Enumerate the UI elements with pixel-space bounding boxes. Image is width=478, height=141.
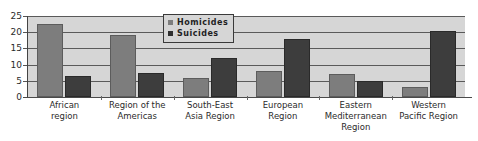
y-axis: 2520151050 — [0, 11, 22, 98]
x-axis-label-3: EuropeanRegion — [247, 100, 320, 122]
bar-homicides-1 — [110, 35, 136, 97]
y-tick-label-0: 0 — [0, 93, 22, 102]
bar-homicides-0 — [37, 24, 63, 97]
bar-homicides-5 — [402, 87, 428, 97]
x-axis-separator-1 — [101, 96, 102, 100]
y-tick-label-25: 25 — [0, 12, 22, 21]
bar-homicides-2 — [183, 78, 209, 97]
x-axis-label-1: Region of theAmericas — [101, 100, 174, 122]
bar-group — [247, 16, 320, 97]
legend-swatch-suicides — [168, 31, 173, 36]
bar-group — [319, 16, 392, 97]
bar-homicides-3 — [256, 71, 282, 97]
legend-label-suicides: Suicides — [177, 29, 219, 38]
x-axis-label-5: WesternPacific Region — [392, 100, 465, 122]
y-tick-label-10: 10 — [0, 60, 22, 69]
legend-item-suicides: Suicides — [168, 28, 228, 39]
bar-group — [392, 16, 465, 97]
y-tick-label-15: 15 — [0, 44, 22, 53]
bar-suicides-2 — [211, 58, 237, 97]
legend-swatch-homicides — [168, 20, 173, 25]
y-tick-label-20: 20 — [0, 28, 22, 37]
legend-item-homicides: Homicides — [168, 17, 228, 28]
x-axis-label-2: South-EastAsia Region — [174, 100, 247, 122]
x-axis-label-4: EasternMediterraneanRegion — [319, 100, 392, 133]
bar-suicides-4 — [357, 81, 383, 97]
x-axis-line — [23, 97, 472, 98]
bar-suicides-3 — [284, 39, 310, 97]
x-axis-separator-2 — [174, 96, 175, 100]
x-axis-separator-3 — [247, 96, 248, 100]
chart-title — [0, 0, 478, 5]
x-axis-label-0: Africanregion — [28, 100, 101, 122]
plot-area — [28, 16, 465, 97]
chart-legend: Homicides Suicides — [163, 14, 234, 43]
x-axis-separator-5 — [392, 96, 393, 100]
bar-suicides-1 — [138, 73, 164, 97]
bar-homicides-4 — [329, 74, 355, 97]
x-axis-labels: AfricanregionRegion of theAmericasSouth-… — [28, 100, 465, 141]
bar-chart: 2520151050 Homicides Suicides Africanreg… — [0, 0, 478, 141]
bar-suicides-0 — [65, 76, 91, 97]
x-axis-separator-4 — [319, 96, 320, 100]
legend-label-homicides: Homicides — [177, 18, 228, 27]
bar-group — [28, 16, 101, 97]
y-tick-label-5: 5 — [0, 76, 22, 85]
bar-suicides-5 — [430, 31, 456, 97]
